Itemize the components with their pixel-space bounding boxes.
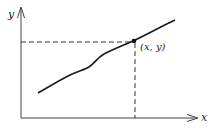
point-marker: [132, 39, 137, 44]
y-axis-label: y: [7, 8, 15, 21]
x-axis-label: x: [201, 111, 208, 124]
function-curve: [38, 20, 175, 93]
graph-canvas: y x (x, y): [0, 0, 217, 129]
x-axis: [21, 115, 198, 122]
y-axis: [18, 7, 25, 118]
point-label: (x, y): [140, 41, 166, 52]
